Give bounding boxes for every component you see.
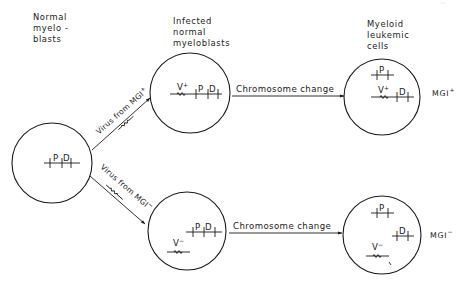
header-line: normal [173,27,206,37]
virus-mgi-minus-label: Virus from MGI− [99,161,156,212]
header-infected-normal-myeloblasts: Infected normal myeloblasts [173,16,230,48]
chromosome-p: P [371,65,394,80]
chromosome-pd: P D [44,153,80,168]
gene-p: P [195,222,200,232]
cell-infected-mgi-plus: V+ P D [150,53,230,133]
transition-chromosome-change-top: Chromosome change [232,84,344,96]
outcome-mgi-minus: MGI− [430,228,453,240]
gene-v: V− [173,237,184,248]
header-line: myeloblasts [173,38,230,48]
cell-leukemic-mgi-plus: P V+ D [344,59,420,135]
cell-membrane [148,192,226,270]
gene-d: D [399,87,406,97]
gene-p: P [53,153,58,163]
gene-d: D [209,84,216,94]
leukemia-diagram: ··· Normal myelo - blasts Infected norma… [0,0,469,286]
header-myeloid-leukemic-cells: Myeloid leukemic cells [367,19,409,51]
gene-d: D [399,226,406,236]
gene-v: V+ [378,84,389,95]
free-provirus-v-minus: V− [366,241,391,265]
free-provirus-v-minus: V− [167,237,190,254]
header-line: Infected [173,16,212,26]
cell-infected-mgi-minus: P D V− [148,192,226,270]
gene-d: D [205,222,212,232]
chromosome-change-label: Chromosome change [236,84,334,94]
header-normal-myeloblasts: Normal myelo - blasts [33,12,69,44]
chromosome-pd: P D [186,222,222,237]
chromosome-v-plus-d: V+ D [371,84,414,102]
gene-v: V+ [177,81,188,92]
virus-mgi-plus-label: Virus from MGI+ [93,84,150,136]
cell-leukemic-mgi-minus: P D V− [343,196,421,274]
gene-p: P [198,84,203,94]
gene-d: D [63,153,70,163]
header-line: cells [367,41,389,51]
gene-v: V− [372,241,383,252]
transition-virus-mgi-plus: Virus from MGI+ [92,84,155,150]
gene-p: P [379,65,384,75]
outcome-mgi-plus: MGI+ [432,86,455,98]
chromosome-d: D [392,226,414,241]
gene-p: P [379,203,384,213]
chromosome-change-label: Chromosome change [233,221,331,231]
transition-virus-mgi-minus: Virus from MGI− [90,161,155,224]
header-line: blasts [33,34,61,44]
header-line: Myeloid [367,19,404,29]
page-corner-mark: ··· [440,0,446,6]
cell-normal-myeloblast: P D [12,123,92,203]
header-line: Normal [33,12,67,22]
chromosome-v-plus-pd: V+ P D [170,81,222,99]
header-line: leukemic [367,30,409,40]
chromosome-p: P [371,203,394,218]
header-line: myelo - [33,23,69,33]
transition-chromosome-change-bottom: Chromosome change [229,221,342,233]
